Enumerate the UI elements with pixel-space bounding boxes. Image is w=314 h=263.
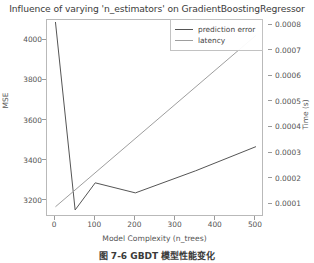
x-tick-mark	[94, 216, 95, 220]
legend-label-latency: latency	[198, 36, 225, 45]
x-tick-mark	[214, 216, 215, 220]
chart-legend: prediction error latency	[170, 19, 263, 51]
legend-item-latency: latency	[175, 35, 257, 46]
x-tick-mark	[254, 216, 255, 220]
legend-swatch-prediction-error	[175, 29, 193, 30]
x-tick-mark	[174, 216, 175, 220]
x-axis-ticks: 0100200300400500	[0, 0, 314, 263]
x-tick-label: 200	[127, 220, 141, 229]
x-tick-label: 0	[52, 220, 57, 229]
x-tick-label: 500	[248, 220, 262, 229]
chart-figure: Influence of varying 'n_estimators' on G…	[0, 0, 314, 263]
legend-item-prediction-error: prediction error	[175, 24, 257, 35]
legend-label-prediction-error: prediction error	[198, 25, 255, 34]
y-axis-left-label: MSE	[1, 78, 10, 124]
x-axis-label: Model Complexity (n_trees)	[46, 234, 263, 243]
x-tick-label: 400	[208, 220, 222, 229]
x-tick-label: 300	[168, 220, 182, 229]
x-tick-mark	[134, 216, 135, 220]
x-tick-label: 100	[87, 220, 101, 229]
x-tick-mark	[54, 216, 55, 220]
figure-caption: 图 7-6 GBDT 模型性能变化	[0, 250, 314, 263]
y-axis-right-label: Time (s)	[301, 92, 310, 138]
legend-swatch-latency	[175, 40, 193, 41]
